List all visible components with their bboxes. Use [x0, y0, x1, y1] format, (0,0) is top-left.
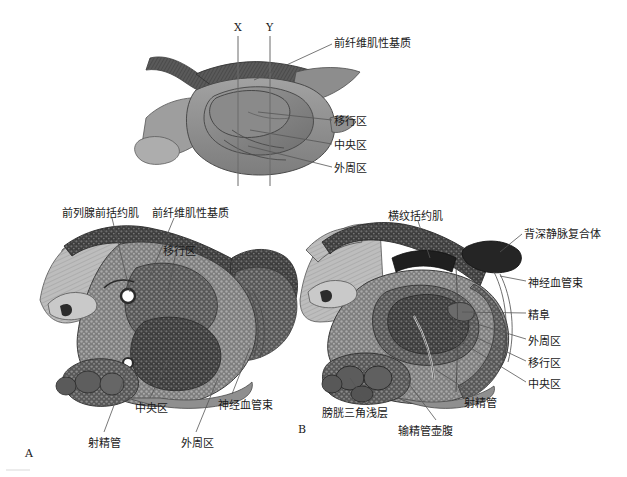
panel-b-marker: B	[298, 423, 306, 436]
panel-b-label-dorsal-vein-complex: 背深静脉复合体	[524, 229, 601, 241]
panel-b-label-transition-zone: 移行区	[528, 358, 561, 370]
top-label-anterior-fibromuscular-stroma: 前纤维肌性基质	[334, 38, 411, 50]
panel-b-label-vas-ampulla: 输精管壶腹	[398, 426, 453, 438]
section-marker-y: Y	[266, 21, 273, 34]
panel-b-label-verumontanum: 精阜	[528, 310, 550, 322]
panel-a-label-anterior-fibromuscular-stroma: 前纤维肌性基质	[152, 208, 229, 220]
panel-b-label-ejaculatory-duct: 射精管	[464, 398, 497, 410]
panel-b-label-central-zone: 中央区	[528, 379, 561, 391]
top-label-central-zone: 中央区	[334, 140, 367, 152]
panel-b-label-striated-sphincter: 横纹括约肌	[388, 211, 443, 223]
top-label-peripheral-zone: 外周区	[334, 163, 367, 175]
trigone-lobules	[322, 353, 410, 404]
panel-a-marker: A	[25, 447, 33, 460]
panel-b-label-peripheral-zone: 外周区	[528, 336, 561, 348]
panel-b-label-neurovascular-bundle: 神经血管束	[528, 278, 583, 290]
panel-b-label-trigone-superficial: 膀胱三角浅层	[322, 408, 388, 420]
panel-a-label-neurovascular-bundle: 神经血管束	[218, 400, 273, 412]
section-marker-x: X	[234, 21, 242, 34]
panel-a-label-preprostatic-sphincter: 前列腺前括约肌	[62, 208, 139, 220]
panel-a-label-transition-zone: 移行区	[163, 246, 196, 258]
top-label-transition-zone: 移行区	[334, 116, 367, 128]
panel-a-label-central-zone: 中央区	[135, 403, 168, 415]
anatomical-figure: X Y 前纤维肌性基质 移行区 中央区 外周区 前列腺前括约肌 前纤维肌性基质 …	[0, 0, 627, 477]
panel-a-label-ejaculatory-duct: 射精管	[88, 438, 121, 450]
panel-a-label-peripheral-zone: 外周区	[181, 438, 214, 450]
